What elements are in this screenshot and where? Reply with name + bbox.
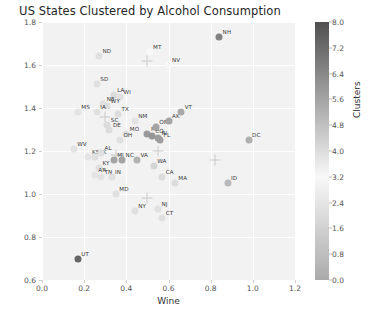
point-label: VT [185,104,192,110]
point-label: MD [119,186,128,192]
colorbar-tick-mark [329,151,332,152]
y-tick-mark [39,237,42,238]
scatter-point[interactable] [93,109,100,116]
scatter-point[interactable] [95,53,102,60]
y-tick-mark [39,65,42,66]
cluster-centroid-marker [142,193,153,204]
scatter-point[interactable] [152,124,159,131]
colorbar-tick-label: 6.4 [332,69,344,78]
scatter-point[interactable] [117,137,124,144]
scatter-point[interactable] [154,206,161,213]
y-tick-mark [39,280,42,281]
point-label: NM [138,113,147,119]
scatter-point[interactable] [178,109,185,116]
scatter-point[interactable] [93,81,100,88]
y-tick-label: 0.8 [10,233,36,242]
scatter-point[interactable] [131,117,138,124]
y-tick-label: 1.0 [10,190,36,199]
cluster-centroid-marker [209,154,220,165]
gridline-horizontal [42,151,295,152]
scatter-point[interactable] [131,208,138,215]
point-label: NC [126,152,134,158]
point-label: MS [81,104,90,110]
colorbar-tick-label: 5.6 [332,95,344,104]
scatter-point[interactable] [110,156,117,163]
scatter-point[interactable] [157,137,164,144]
scatter-point[interactable] [224,180,231,187]
y-tick-mark [39,194,42,195]
x-tick-label: 0.2 [78,284,90,293]
scatter-point[interactable] [159,214,166,221]
colorbar-tick-mark [329,125,332,126]
scatter-point[interactable] [108,173,115,180]
point-label: NV [172,57,180,63]
scatter-point[interactable] [98,173,105,180]
point-label: DC [252,132,260,138]
scatter-point[interactable] [133,156,140,163]
colorbar-tick-label: 8.0 [332,18,344,27]
scatter-point[interactable] [165,62,172,69]
point-label: WI [124,89,131,95]
colorbar-tick-label: 0.8 [332,250,344,259]
cluster-centroid-marker [152,146,163,157]
scatter-point[interactable] [171,180,178,187]
point-label: WY [111,98,120,104]
x-tick-mark [126,280,127,283]
point-label: IA [100,104,106,110]
scatter-point[interactable] [159,173,166,180]
colorbar-tick-label: 7.2 [332,43,344,52]
x-axis-label: Wine [42,296,295,306]
point-label: MO [130,126,139,132]
colorbar-tick-mark [329,99,332,100]
x-tick-mark [253,280,254,283]
point-label: WV [77,141,87,147]
point-label: KY [102,160,109,166]
colorbar-tick-label: 4.8 [332,121,344,130]
point-label: ID [231,175,237,181]
colorbar-tick-mark [329,47,332,48]
gridline-horizontal [42,194,295,195]
scatter-point[interactable] [112,191,119,198]
y-tick-label: 0.6 [10,276,36,285]
point-label: TX [121,106,128,112]
y-tick-label: 1.8 [10,18,36,27]
point-label: CT [166,210,174,216]
point-label: CA [166,169,174,175]
colorbar-tick-mark [329,280,332,281]
x-tick-label: 1.2 [289,284,301,293]
point-label: IN [115,169,121,175]
colorbar-tick-mark [329,176,332,177]
x-tick-mark [84,280,85,283]
y-tick-label: 1.6 [10,61,36,70]
scatter-point[interactable] [165,117,172,124]
colorbar-label: Clusters [352,81,362,118]
colorbar-tick-mark [329,73,332,74]
x-tick-mark [211,280,212,283]
scatter-point[interactable] [74,109,81,116]
point-label: SD [100,76,108,82]
scatter-point[interactable] [74,255,81,262]
y-tick-mark [39,108,42,109]
scatter-point[interactable] [106,126,113,133]
colorbar-tick-label: 0.0 [332,276,344,285]
colorbar-tick-mark [329,202,332,203]
point-label: WA [157,158,166,164]
colorbar-tick-label: 4.0 [332,147,344,156]
chart-title: US States Clustered by Alcohol Consumpti… [0,4,300,18]
colorbar-tick-label: 3.2 [332,172,344,181]
scatter-point[interactable] [70,145,77,152]
point-label: AL [105,145,112,151]
colorbar-tick-label: 1.6 [332,224,344,233]
point-label: OH [124,132,133,138]
y-tick-label: 1.2 [10,147,36,156]
scatter-point[interactable] [216,34,223,41]
scatter-point[interactable] [150,163,157,170]
scatter-point[interactable] [245,137,252,144]
cluster-centroid-marker [142,55,153,66]
y-tick-label: 1.4 [10,104,36,113]
scatter-point[interactable] [98,150,105,157]
point-label: MT [153,44,161,50]
scatter-point[interactable] [146,49,153,56]
colorbar-tick-mark [329,228,332,229]
scatter-point[interactable] [119,156,126,163]
